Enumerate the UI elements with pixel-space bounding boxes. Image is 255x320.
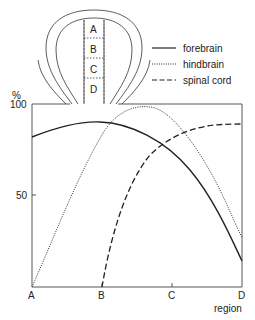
legend: forebrain hindbrain spinal cord: [152, 43, 231, 86]
chart-svg: A B C D forebrain hindbrain spinal cord …: [0, 0, 255, 320]
y-tick-100: 100: [10, 99, 27, 110]
legend-spinal-cord: spinal cord: [183, 75, 231, 86]
x-axis-title: region: [214, 303, 242, 314]
x-tick-b: B: [98, 290, 105, 301]
legend-hindbrain: hindbrain: [183, 59, 224, 70]
inset-label-a: A: [90, 24, 97, 35]
inset-label-c: C: [90, 64, 97, 75]
inset-label-b: B: [90, 44, 97, 55]
plot-frame: [32, 104, 242, 287]
hindbrain-line: [32, 107, 242, 287]
forebrain-line: [32, 122, 242, 261]
y-tick-50: 50: [16, 190, 28, 201]
inset-label-d: D: [90, 84, 97, 95]
spinal-cord-line: [102, 124, 242, 287]
legend-forebrain: forebrain: [183, 43, 222, 54]
x-tick-c: C: [168, 290, 175, 301]
x-tick-d: D: [238, 290, 245, 301]
x-tick-a: A: [28, 290, 35, 301]
